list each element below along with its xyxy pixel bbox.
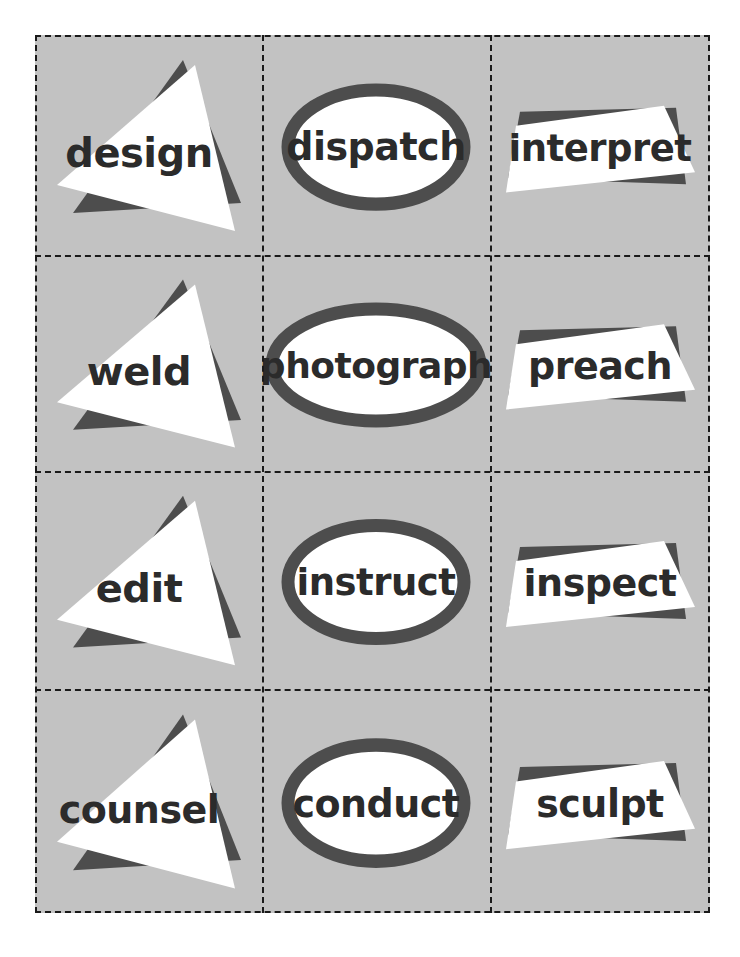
card-word: design bbox=[65, 130, 212, 176]
quadrilateral-card-graphic: interpret bbox=[490, 35, 710, 255]
flashcard-dispatch[interactable]: dispatch bbox=[262, 35, 490, 255]
ellipse-card-graphic: dispatch bbox=[262, 35, 490, 255]
flashcard-graphic: sculpt bbox=[490, 689, 710, 913]
card-word: preach bbox=[528, 344, 672, 388]
flashcard-graphic: photograph bbox=[262, 255, 490, 471]
cut-line-vertical-1 bbox=[262, 35, 264, 913]
flashcard-counsel[interactable]: counsel bbox=[35, 689, 262, 913]
flashcard-graphic: inspect bbox=[490, 471, 710, 689]
card-word: inspect bbox=[524, 561, 677, 605]
ellipse-card-graphic: photograph bbox=[262, 255, 490, 471]
flashcard-sheet-page: design dispatch interpret weld photograp… bbox=[0, 0, 740, 957]
card-word: instruct bbox=[297, 560, 456, 604]
quadrilateral-card-graphic: sculpt bbox=[490, 689, 710, 913]
flashcard-preach[interactable]: preach bbox=[490, 255, 710, 471]
card-word: interpret bbox=[508, 126, 691, 170]
ellipse-card-graphic: conduct bbox=[262, 689, 490, 913]
quadrilateral-card-graphic: preach bbox=[490, 255, 710, 471]
flashcard-graphic: edit bbox=[35, 471, 262, 689]
flashcard-graphic: weld bbox=[35, 255, 262, 471]
flashcard-graphic: preach bbox=[490, 255, 710, 471]
flashcard-graphic: instruct bbox=[262, 471, 490, 689]
flashcard-inspect[interactable]: inspect bbox=[490, 471, 710, 689]
cut-line-horizontal-3 bbox=[35, 689, 710, 691]
cut-line-horizontal-2 bbox=[35, 471, 710, 473]
triangle-card-graphic: design bbox=[35, 35, 262, 255]
card-word: sculpt bbox=[536, 781, 664, 827]
flashcard-graphic: design bbox=[35, 35, 262, 255]
triangle-card-graphic: edit bbox=[35, 471, 262, 689]
ellipse-card-graphic: instruct bbox=[262, 471, 490, 689]
flashcard-instruct[interactable]: instruct bbox=[262, 471, 490, 689]
flashcard-design[interactable]: design bbox=[35, 35, 262, 255]
flashcard-graphic: conduct bbox=[262, 689, 490, 913]
flashcard-graphic: interpret bbox=[490, 35, 710, 255]
card-word: weld bbox=[87, 348, 191, 394]
flashcard-edit[interactable]: edit bbox=[35, 471, 262, 689]
flashcard-interpret[interactable]: interpret bbox=[490, 35, 710, 255]
card-word: edit bbox=[96, 565, 183, 611]
flashcard-graphic: counsel bbox=[35, 689, 262, 913]
flashcard-graphic: dispatch bbox=[262, 35, 490, 255]
card-word: photograph bbox=[260, 345, 492, 386]
quadrilateral-card-graphic: inspect bbox=[490, 471, 710, 689]
card-word: conduct bbox=[292, 780, 459, 826]
flashcard-weld[interactable]: weld bbox=[35, 255, 262, 471]
flashcard-sculpt[interactable]: sculpt bbox=[490, 689, 710, 913]
flashcard-grid: design dispatch interpret weld photograp… bbox=[35, 35, 710, 913]
triangle-card-graphic: weld bbox=[35, 255, 262, 471]
flashcard-photograph[interactable]: photograph bbox=[262, 255, 490, 471]
card-word: counsel bbox=[59, 787, 220, 832]
triangle-card-graphic: counsel bbox=[35, 689, 262, 913]
cut-line-horizontal-1 bbox=[35, 255, 710, 257]
cut-line-vertical-2 bbox=[490, 35, 492, 913]
flashcard-conduct[interactable]: conduct bbox=[262, 689, 490, 913]
card-word: dispatch bbox=[286, 124, 465, 169]
